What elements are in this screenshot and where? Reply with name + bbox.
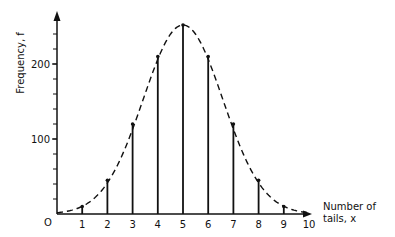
x-tick-label: 5: [180, 219, 186, 230]
stem-point: [232, 122, 236, 126]
x-axis-title-line2: tails, x: [323, 213, 356, 224]
y-ticks: 100200: [31, 34, 57, 199]
frequency-stems: [80, 23, 285, 214]
x-tick-label: 8: [255, 219, 261, 230]
stem-point: [206, 55, 210, 59]
stem-point: [131, 122, 135, 126]
x-tick-label: 10: [303, 219, 316, 230]
stem-point: [181, 23, 185, 27]
stem-point: [156, 55, 160, 59]
x-axis-arrow-icon: [303, 211, 312, 218]
x-tick-label: 7: [230, 219, 236, 230]
x-tick-label: 9: [281, 219, 287, 230]
y-axis-arrow-icon: [54, 11, 61, 21]
stem-point: [106, 178, 110, 182]
x-axis-title-line1: Number of: [323, 201, 376, 212]
x-tick-label: 4: [155, 219, 161, 230]
x-tick-label: 3: [129, 219, 135, 230]
x-tick-label: 2: [104, 219, 110, 230]
y-axis-title: Frequency, f: [15, 32, 26, 94]
stem-point: [257, 178, 261, 182]
y-tick-label: 100: [31, 134, 50, 145]
x-axis-title: Number of tails, x: [323, 201, 379, 224]
origin-label: O: [44, 217, 52, 228]
stem-point: [80, 205, 84, 209]
x-tick-label: 6: [205, 219, 211, 230]
binomial-frequency-chart: 100200 12345678910 O Frequency, f Number…: [0, 0, 395, 237]
x-ticks: 12345678910: [79, 219, 315, 230]
x-tick-label: 1: [79, 219, 85, 230]
y-tick-label: 200: [31, 59, 50, 70]
stem-point: [282, 205, 286, 209]
